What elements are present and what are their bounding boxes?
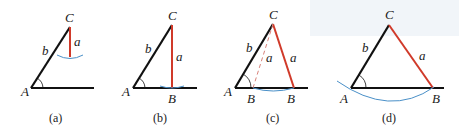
panel-b: A b C a B (b) (121, 8, 197, 125)
side-b-label: b (145, 41, 152, 56)
panel-c: A b C a a B B (c) (223, 7, 308, 125)
vertex-c-label: C (385, 7, 394, 22)
side-b-label: b (42, 43, 49, 58)
angle-a-mark (243, 74, 251, 88)
vertex-c-label: C (65, 10, 74, 25)
angle-a-mark (359, 75, 366, 88)
panel-d: A b C a B (d) (337, 7, 444, 125)
side-a-label: a (176, 49, 183, 64)
side-a-label: a (74, 34, 81, 49)
ssa-ambiguous-case-diagram: A b C a (a) A b C a B (b) A b C a a B B … (0, 0, 459, 131)
caption-d: (d) (382, 111, 396, 125)
side-a (389, 25, 433, 88)
vertex-a-label: A (121, 84, 130, 99)
side-b (351, 25, 389, 88)
side-b-label: b (246, 40, 253, 55)
side-a-label: a (419, 48, 426, 63)
vertex-a-label: A (339, 91, 348, 106)
vertex-a-label: A (223, 84, 232, 99)
vertex-c-label: C (168, 8, 177, 23)
angle-a-mark (139, 78, 145, 88)
vertex-b2-label: B (287, 91, 295, 106)
side-b-label: b (362, 40, 369, 55)
caption-a: (a) (49, 111, 62, 125)
side-b (133, 25, 172, 88)
vertex-a-label: A (20, 84, 29, 99)
arc (337, 81, 434, 101)
vertex-b-label: B (432, 91, 440, 106)
caption-b: (b) (153, 111, 167, 125)
vertex-c-label: C (269, 7, 278, 22)
caption-c: (c) (266, 111, 279, 125)
vertex-b-label: B (168, 91, 176, 106)
panel-a: A b C a (a) (20, 10, 94, 125)
vertex-b1-label: B (247, 91, 255, 106)
side-a-dashed-label: a (266, 50, 273, 65)
angle-a-mark (37, 78, 43, 88)
side-a-label: a (290, 50, 297, 65)
